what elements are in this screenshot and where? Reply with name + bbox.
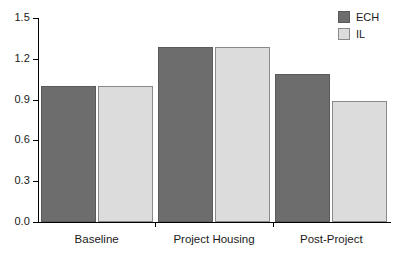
category-label: Baseline [38, 233, 155, 246]
legend-swatch-il-icon [338, 28, 350, 40]
chart-legend: ECH IL [338, 11, 379, 40]
y-tick-label: 0.9 [2, 94, 30, 105]
y-tick-label: 0.3 [2, 175, 30, 186]
category-label: Post-Project [273, 233, 390, 246]
y-tick-label: 1.2 [2, 53, 30, 64]
bar-il-project-housing [215, 47, 270, 222]
bar-ech-baseline [41, 86, 96, 222]
legend-label-ech: ECH [356, 11, 379, 23]
y-tick-mark [33, 222, 38, 223]
bar-ech-project-housing [158, 47, 213, 222]
plot-area [38, 18, 390, 222]
y-tick-label: 0.0 [2, 216, 30, 227]
bar-il-post-project [332, 101, 387, 222]
y-tick-label: 0.6 [2, 134, 30, 145]
bar-il-baseline [98, 86, 153, 222]
legend-item-ech: ECH [338, 11, 379, 23]
x-tick-mark [273, 222, 274, 227]
legend-label-il: IL [356, 28, 365, 40]
x-tick-mark [155, 222, 156, 227]
x-axis-line [38, 222, 391, 223]
legend-item-il: IL [338, 28, 379, 40]
legend-swatch-ech-icon [338, 11, 350, 23]
bar-chart: 0.00.30.60.91.21.5 BaselineProject Housi… [0, 0, 399, 258]
y-tick-label: 1.5 [2, 12, 30, 23]
category-label: Project Housing [155, 233, 272, 246]
bar-ech-post-project [275, 74, 330, 222]
